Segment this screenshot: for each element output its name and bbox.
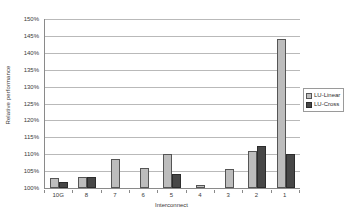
- bar-group: [130, 19, 158, 188]
- y-axis-tick-label: 125%: [24, 101, 39, 107]
- x-axis-tick-mark: [299, 190, 300, 193]
- bar-lu-linear-8: [78, 177, 87, 188]
- legend-label: LU-Cross: [314, 101, 339, 108]
- x-axis-tick-label: 8: [72, 190, 100, 202]
- bars-layer: [45, 19, 300, 188]
- legend-swatch-icon: [306, 102, 312, 108]
- bar-lu-linear-5: [163, 154, 172, 188]
- bar-group: [215, 19, 243, 188]
- bar-lu-cross-8: [87, 177, 96, 188]
- bar-lu-linear-6: [140, 168, 149, 188]
- x-axis-tick-label: 3: [214, 190, 242, 202]
- x-axis-tick-label: 6: [129, 190, 157, 202]
- x-axis-tick-label: 10G: [44, 190, 72, 202]
- y-axis-tick-label: 130%: [24, 84, 39, 90]
- x-axis-tick-labels: 10G87654321: [44, 190, 299, 202]
- bar-lu-cross-2: [257, 146, 266, 188]
- bar-group: [187, 19, 215, 188]
- legend-item: LU-Cross: [306, 100, 340, 109]
- legend: LU-LinearLU-Cross: [303, 88, 344, 112]
- y-axis-tick-label: 110%: [24, 151, 39, 157]
- x-axis-tick-mark: [214, 190, 215, 193]
- bar-group: [73, 19, 101, 188]
- bar-lu-linear-2: [248, 151, 257, 188]
- x-axis-tick-mark: [271, 190, 272, 193]
- y-axis-tick-label: 100%: [24, 185, 39, 191]
- x-axis-tick-mark: [157, 190, 158, 193]
- bar-lu-linear-7: [111, 159, 120, 188]
- bar-group: [45, 19, 73, 188]
- bar-lu-linear-10g: [50, 178, 59, 188]
- bar-group: [272, 19, 300, 188]
- x-axis-tick-mark: [186, 190, 187, 193]
- y-axis-title: Relative performance: [0, 0, 16, 190]
- bar-group: [243, 19, 271, 188]
- x-axis-tick-mark: [101, 190, 102, 193]
- x-axis-tick-label: 2: [242, 190, 270, 202]
- y-axis-tick-label: 105%: [24, 168, 39, 174]
- y-axis-tick-label: 120%: [24, 117, 39, 123]
- x-axis-tick-mark: [72, 190, 73, 193]
- x-axis-tick-label: 4: [186, 190, 214, 202]
- bar-lu-cross-5: [172, 174, 181, 188]
- legend-swatch-icon: [306, 93, 312, 99]
- x-axis-tick-label: 1: [271, 190, 299, 202]
- bar-group: [158, 19, 186, 188]
- plot-area: [44, 19, 300, 189]
- x-axis-title-text: Interconnect: [155, 202, 188, 208]
- y-axis-tick-label: 145%: [24, 33, 39, 39]
- y-axis-title-text: Relative performance: [5, 65, 11, 124]
- y-axis-tick-labels: 100%105%110%115%120%125%130%135%140%145%…: [16, 19, 42, 188]
- y-axis-tick-label: 140%: [24, 50, 39, 56]
- bar-lu-linear-4: [196, 185, 205, 188]
- x-axis-tick-label: 7: [101, 190, 129, 202]
- x-axis-tick-mark: [242, 190, 243, 193]
- y-axis-tick-label: 115%: [24, 134, 39, 140]
- relative-performance-bar-chart: Relative performance 100%105%110%115%120…: [0, 0, 356, 219]
- bar-lu-cross-1: [286, 154, 295, 188]
- legend-label: LU-Linear: [314, 92, 340, 99]
- x-axis-title: Interconnect: [44, 202, 299, 208]
- bar-lu-linear-3: [225, 169, 234, 188]
- bar-lu-cross-10g: [59, 182, 68, 188]
- y-axis-tick-label: 150%: [24, 16, 39, 22]
- legend-item: LU-Linear: [306, 91, 340, 100]
- x-axis-tick-mark: [129, 190, 130, 193]
- bar-group: [102, 19, 130, 188]
- bar-lu-linear-1: [277, 39, 286, 188]
- x-axis-tick-label: 5: [157, 190, 185, 202]
- x-axis-tick-mark: [44, 190, 45, 193]
- y-axis-tick-label: 135%: [24, 67, 39, 73]
